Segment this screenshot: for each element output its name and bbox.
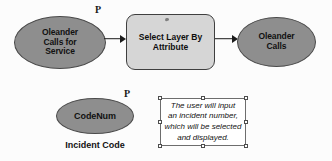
node-variable-codenum[interactable]: CodeNum [56,98,134,134]
selection-handle-middle-left[interactable] [158,120,162,124]
annotation-textbox[interactable]: The user will input an incident number, … [160,98,246,146]
connector-input-to-tool [104,34,126,43]
node-input-label: Oleander Calls for Service [38,28,82,57]
variable-caption-incident-code: Incident Code [56,141,134,150]
annotation-text: The user will input an incident number, … [163,101,244,143]
selection-handle-top-left[interactable] [158,96,162,100]
selection-handle-top-center[interactable] [201,96,205,100]
selection-handle-bottom-center[interactable] [201,144,205,148]
variable-parameter-marker: P [124,89,130,99]
connector-tool-to-output [215,34,238,43]
node-output-label: Oleander Calls [254,32,298,51]
selection-handle-bottom-left[interactable] [158,144,162,148]
node-variable-label: CodeNum [70,111,120,121]
node-output-oleander-calls[interactable]: Oleander Calls [237,17,316,67]
input-parameter-marker: P [95,5,101,15]
connector-shaft [104,38,120,40]
node-tool-select-layer-by-attribute[interactable]: Select Layer By Attribute [126,14,215,70]
node-input-oleander-calls-for-service[interactable]: Oleander Calls for Service [14,16,106,69]
node-tool-label: Select Layer By Attribute [135,32,206,52]
selection-handle-middle-right[interactable] [244,120,248,124]
selection-handle-bottom-right[interactable] [244,144,248,148]
canvas-speck-artifact [165,17,170,21]
connector-shaft [215,38,232,40]
selection-handle-top-right[interactable] [244,96,248,100]
model-canvas[interactable]: Oleander Calls for Service P Select Laye… [0,0,332,161]
